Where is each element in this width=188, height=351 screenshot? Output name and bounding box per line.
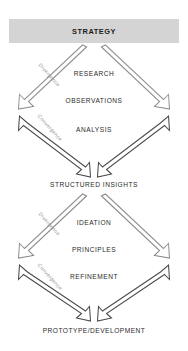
stage-label-refinement: REFINEMENT [0, 273, 188, 280]
stage-label-analysis: ANALYSIS [0, 126, 188, 133]
stage-label-research: RESEARCH [0, 70, 188, 77]
diagram-canvas [0, 0, 188, 351]
strategy-header-label: STRATEGY [72, 27, 116, 36]
strategy-header-bar: STRATEGY [9, 19, 179, 43]
stage-label-observations: OBSERVATIONS [0, 97, 188, 104]
stage-label-structured-insights: STRUCTURED INSIGHTS [0, 181, 188, 188]
stage-label-prototype-development: PROTOTYPE/DEVELOPMENT [0, 327, 188, 334]
double-diamond-diagram: STRATEGY Divergence Convergence Divergen… [0, 0, 188, 351]
stage-label-principles: PRINCIPLES [0, 246, 188, 253]
stage-label-ideation: IDEATION [0, 219, 188, 226]
